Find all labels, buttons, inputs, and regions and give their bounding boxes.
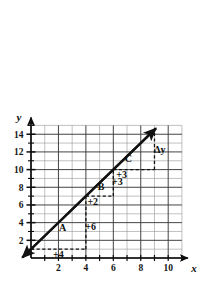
run-label: +4 [53,249,64,260]
y-tick-label: 12 [14,147,24,157]
x-tick-label: 4 [84,263,89,273]
y-tick-label: 4 [19,218,24,228]
x-tick-label: 8 [138,263,143,273]
x-axis-name: x [190,262,197,274]
x-tick-label: 2 [56,263,61,273]
x-tick-label: 10 [163,263,173,273]
slope-triangles-chart: 2468102468101214 ABC+4+6+2+3+3Δy yx [0,0,213,283]
y-axis-name: y [15,111,22,123]
y-tick-label: 10 [14,165,24,175]
y-tick-label: 2 [19,236,24,246]
triangle-label-a: A [59,222,67,233]
run-label: +3 [116,169,127,180]
x-tick-label: 6 [111,263,116,273]
delta-y-label: Δy [154,144,165,155]
triangle-label-b: B [98,181,105,192]
run-label: +2 [87,196,98,207]
rise-label: +6 [85,221,96,232]
y-tick-label: 8 [19,183,24,193]
y-tick-label: 6 [19,200,24,210]
triangle-label-c: C [125,153,132,164]
chart-svg: 2468102468101214 ABC+4+6+2+3+3Δy yx [0,0,213,283]
y-tick-label: 14 [14,130,24,140]
